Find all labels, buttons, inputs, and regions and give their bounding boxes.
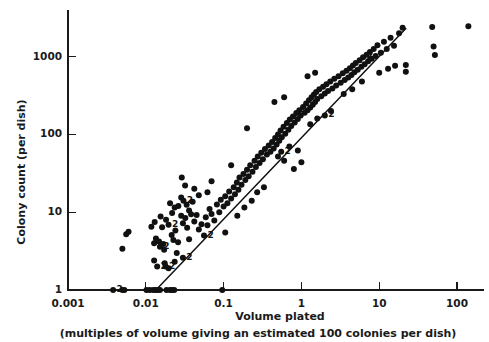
data-point (374, 42, 380, 48)
data-point (295, 148, 301, 154)
x-axis-tick-labels: 0.0010.010.1110100 (51, 297, 468, 309)
data-point (432, 52, 438, 58)
data-point (385, 66, 391, 72)
point-multiplicity-label: 2 (163, 241, 169, 251)
data-point (244, 125, 250, 131)
data-point (203, 214, 209, 220)
data-point (209, 178, 215, 184)
data-point (196, 192, 202, 198)
data-point (228, 162, 234, 168)
data-point (186, 236, 192, 242)
y-axis-tick-label: 10 (47, 205, 62, 217)
data-point (174, 250, 180, 256)
data-point (214, 201, 220, 207)
data-point (167, 200, 173, 206)
data-point (261, 184, 267, 190)
x-axis-tick-label: 100 (446, 297, 468, 309)
data-point (175, 203, 181, 209)
point-multiplicity-label: 2 (172, 219, 178, 229)
data-point (179, 174, 185, 180)
data-point (191, 218, 197, 224)
point-multiplicity-label: 2 (328, 109, 334, 119)
data-point (119, 246, 125, 252)
data-point (249, 198, 255, 204)
data-point (281, 94, 287, 100)
axes: 1101001000 0.0010.010.1110100 (33, 10, 484, 309)
data-point (376, 70, 382, 76)
point-multiplicity-label: 2 (116, 284, 122, 294)
point-multiplicity-label: 2 (187, 195, 193, 205)
data-point (381, 39, 387, 45)
x-axis-subtitle: (multiples of volume giving an estimated… (60, 327, 457, 340)
data-point (126, 229, 132, 235)
data-point (169, 210, 175, 216)
data-point (204, 189, 210, 195)
point-multiplicity-label: 2 (366, 51, 372, 61)
y-axis-tick-label: 100 (40, 127, 62, 139)
data-point (222, 193, 228, 199)
data-point (209, 211, 215, 217)
data-point (298, 159, 304, 165)
data-point (359, 78, 365, 84)
data-point (180, 220, 186, 226)
data-point (388, 35, 394, 41)
data-point (158, 214, 164, 220)
data-point (226, 188, 232, 194)
data-point (191, 186, 197, 192)
x-axis-tick-label: 0.1 (214, 297, 233, 309)
scatter-plot: 1101001000 0.0010.010.1110100 2222222222… (0, 0, 489, 342)
data-point (204, 222, 210, 228)
data-points-layer (110, 23, 471, 293)
data-point (260, 156, 266, 162)
data-point (305, 73, 311, 79)
data-point (219, 287, 225, 293)
x-axis-ticks (146, 282, 457, 290)
data-point (154, 264, 160, 270)
point-multiplicity-label: 2 (161, 261, 167, 271)
data-point (392, 63, 398, 69)
data-point (241, 204, 247, 210)
data-point (312, 70, 318, 76)
data-point (199, 221, 205, 227)
data-point (429, 24, 435, 30)
data-point (182, 183, 188, 189)
y-axis-tick-labels: 1101001000 (33, 50, 62, 295)
data-point (239, 182, 245, 188)
data-point (152, 219, 158, 225)
data-point (110, 287, 116, 293)
x-axis-tick-label: 0.01 (133, 297, 159, 309)
data-point (184, 225, 190, 231)
data-point (224, 200, 230, 206)
data-point (234, 213, 240, 219)
x-axis-tick-label: 1 (298, 297, 305, 309)
x-axis-tick-label: 0.001 (51, 297, 84, 309)
data-point (211, 218, 217, 224)
data-point (196, 226, 202, 232)
point-multiplicity-label: 2 (169, 261, 175, 271)
y-axis-ticks (68, 57, 76, 213)
data-point (431, 43, 437, 49)
data-point (403, 62, 409, 68)
reference-fit-line (156, 28, 406, 290)
x-axis-title: Volume plated (235, 310, 324, 323)
y-axis-tick-label: 1000 (33, 50, 62, 62)
y-axis-tick-label: 1 (55, 283, 62, 295)
figure-container: 1101001000 0.0010.010.1110100 2222222222… (0, 0, 489, 342)
data-point (254, 189, 260, 195)
data-point (278, 149, 284, 155)
data-point (159, 224, 165, 230)
data-point (222, 229, 228, 235)
data-point (216, 209, 222, 215)
data-point (465, 23, 471, 29)
data-point (188, 211, 194, 217)
data-point (182, 215, 188, 221)
data-point (403, 69, 409, 75)
data-point (291, 166, 297, 172)
data-point (271, 99, 277, 105)
y-axis-title: Colony count (per dish) (15, 99, 28, 244)
x-axis-tick-label: 10 (372, 297, 387, 309)
data-point (166, 222, 172, 228)
data-point (194, 212, 200, 218)
data-point (175, 239, 181, 245)
data-point (247, 162, 253, 168)
